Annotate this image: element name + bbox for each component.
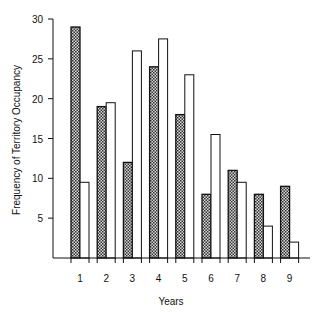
x-axis-label: Years	[158, 296, 183, 307]
bar-open-year-9	[290, 242, 299, 258]
bar-open-year-6	[211, 135, 220, 259]
x-tick-label: 5	[182, 273, 188, 284]
x-tick-label: 2	[103, 273, 109, 284]
bar-chart: 51015202530 123456789 Years Frequency of…	[0, 0, 322, 314]
y-axis-label: Frequency of Territory Occupancy	[11, 65, 22, 215]
bar-shaded-year-3	[123, 162, 132, 258]
bar-shaded-year-4	[150, 67, 159, 258]
bar-open-year-5	[185, 75, 194, 258]
x-tick-label: 6	[208, 273, 214, 284]
y-tick-label: 30	[32, 14, 44, 25]
bar-shaded-year-7	[228, 170, 237, 258]
bar-open-year-7	[237, 182, 246, 258]
bar-shaded-year-8	[254, 194, 263, 258]
y-tick-label: 10	[32, 173, 44, 184]
x-tick-label: 3	[130, 273, 136, 284]
y-tick-label: 15	[32, 134, 44, 145]
bar-shaded-year-1	[71, 27, 80, 258]
bar-open-year-8	[263, 226, 272, 258]
x-tick-label: 9	[287, 273, 293, 284]
x-tick-label: 1	[77, 273, 83, 284]
y-ticks: 51015202530	[32, 14, 53, 224]
bars-group	[71, 27, 299, 258]
bar-shaded-year-9	[281, 186, 290, 258]
bar-open-year-2	[106, 103, 115, 258]
bar-open-year-3	[132, 51, 141, 258]
bar-open-year-1	[80, 182, 89, 258]
x-ticks: 123456789	[71, 258, 299, 284]
y-tick-label: 25	[32, 54, 44, 65]
x-tick-label: 4	[156, 273, 162, 284]
bar-shaded-year-2	[97, 107, 106, 258]
bar-shaded-year-5	[176, 115, 185, 258]
bar-open-year-4	[159, 39, 168, 258]
x-tick-label: 7	[234, 273, 240, 284]
y-tick-label: 5	[37, 213, 43, 224]
bar-shaded-year-6	[202, 194, 211, 258]
x-tick-label: 8	[261, 273, 267, 284]
y-tick-label: 20	[32, 94, 44, 105]
